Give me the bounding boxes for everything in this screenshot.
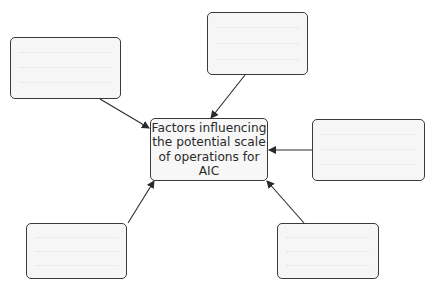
factor-box-right[interactable]: [312, 119, 425, 181]
blank-line: [19, 82, 112, 83]
blank-line: [286, 265, 370, 266]
central-topic-box: Factors influencing the potential scale …: [150, 118, 268, 181]
factor-box-top-left[interactable]: [10, 37, 121, 99]
arrow-from-top-left: [100, 99, 149, 128]
blank-line: [321, 134, 416, 135]
central-topic-line-3: of operations for AIC: [151, 150, 267, 179]
blank-line: [216, 43, 299, 44]
arrow-from-bottom-right: [267, 181, 304, 223]
arrow-from-bottom-left: [128, 181, 154, 223]
blank-line: [19, 52, 112, 53]
factor-box-bottom-right[interactable]: [277, 223, 379, 279]
central-topic-line-2: the potential scale: [152, 135, 265, 150]
blank-line: [216, 59, 299, 60]
blank-line: [321, 149, 416, 150]
arrow-from-top: [211, 75, 245, 118]
blank-line: [216, 27, 299, 28]
blank-line: [35, 237, 118, 238]
factor-box-top[interactable]: [207, 12, 308, 75]
blank-line: [286, 237, 370, 238]
blank-line: [35, 265, 118, 266]
central-topic-line-1: Factors influencing: [152, 121, 267, 136]
blank-line: [286, 251, 370, 252]
blank-line: [19, 67, 112, 68]
blank-line: [321, 164, 416, 165]
factor-box-bottom-left[interactable]: [26, 223, 127, 279]
blank-line: [35, 251, 118, 252]
